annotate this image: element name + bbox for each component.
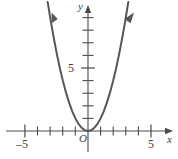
x-axis-name-label: x bbox=[167, 134, 172, 145]
parabola-left-arrowhead-icon bbox=[52, 13, 58, 24]
origin-label: O bbox=[79, 133, 87, 144]
coordinate-plane bbox=[0, 0, 178, 159]
y-axis-name-label: y bbox=[78, 1, 83, 12]
graph-figure: –5 5 5 O x y bbox=[0, 0, 178, 159]
x-axis-label-minus5: –5 bbox=[16, 138, 28, 150]
y-axis-label-5: 5 bbox=[68, 62, 74, 74]
x-axis-label-5: 5 bbox=[148, 138, 154, 150]
y-axis-arrowhead-icon bbox=[85, 5, 91, 13]
